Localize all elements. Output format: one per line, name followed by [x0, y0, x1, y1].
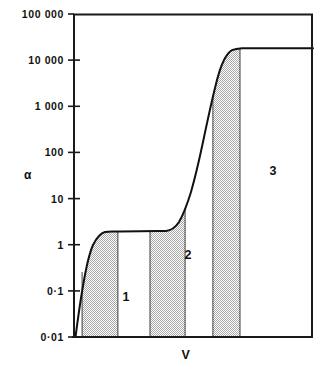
y-tick-label-10000: 10 000	[0, 54, 64, 66]
y-tick-label-0.1: 0·1	[0, 285, 64, 297]
y-tick-label-0.01: 0·01	[0, 331, 64, 343]
shaded-band-1	[82, 14, 118, 337]
region-label-1: 1	[123, 290, 130, 304]
x-axis-title: V	[182, 348, 191, 362]
y-tick-label-100000: 100 000	[0, 8, 64, 20]
region-label-2: 2	[185, 248, 192, 262]
y-tick-label-100: 100	[0, 146, 64, 158]
shaded-band-3	[213, 14, 240, 337]
shaded-bands-group	[82, 14, 240, 337]
y-axis-title: α	[24, 168, 31, 182]
y-tick-label-1000: 1 000	[0, 100, 64, 112]
region-label-3: 3	[270, 164, 277, 178]
y-tick-label-10: 10	[0, 193, 64, 205]
shaded-band-2	[150, 14, 185, 337]
chart-figure: 100 000 10 000 1 000 100 10 1 0·1 0·01 α…	[0, 0, 323, 378]
y-tick-label-1: 1	[0, 239, 64, 251]
